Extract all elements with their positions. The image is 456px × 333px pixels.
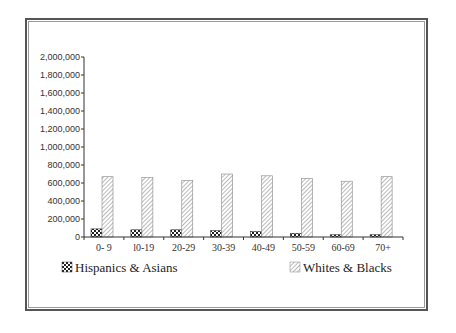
bar bbox=[91, 229, 102, 237]
y-tick-label: 1,200,000 bbox=[40, 124, 80, 134]
x-tick-label: 50-59 bbox=[292, 242, 315, 253]
y-tick-label: 200,000 bbox=[47, 214, 80, 224]
x-tick-label: l0-19 bbox=[133, 242, 154, 253]
y-tick-label: 1,000,000 bbox=[40, 142, 80, 152]
bar bbox=[211, 231, 222, 237]
y-tick-label: 1,800,000 bbox=[40, 70, 80, 80]
x-tick-label: 20-29 bbox=[172, 242, 195, 253]
bar bbox=[131, 230, 142, 237]
bar-chart: 0200,000400,000600,000800,0001,000,0001,… bbox=[0, 0, 456, 333]
bar bbox=[102, 177, 113, 237]
x-axis: 0- 9l0-1920-2930-3940-4950-5960-6970+ bbox=[84, 237, 403, 253]
y-tick-label: 1,600,000 bbox=[40, 88, 80, 98]
legend-label-whites-blacks: Whites & Blacks bbox=[303, 260, 392, 275]
bar bbox=[301, 179, 312, 238]
x-tick-label: 30-39 bbox=[212, 242, 235, 253]
bar bbox=[171, 230, 182, 237]
y-tick-label: 2,000,000 bbox=[40, 52, 80, 62]
y-tick-label: 600,000 bbox=[47, 178, 80, 188]
bar bbox=[251, 232, 262, 237]
bar bbox=[262, 176, 273, 237]
bar bbox=[290, 233, 301, 237]
legend-swatch-whites-blacks bbox=[290, 262, 300, 272]
legend: Hispanics & Asians Whites & Blacks bbox=[62, 260, 392, 275]
legend-swatch-hispanics-asians bbox=[62, 262, 72, 272]
x-tick-label: 60-69 bbox=[332, 242, 355, 253]
bar bbox=[381, 177, 392, 237]
y-tick-label: 800,000 bbox=[47, 160, 80, 170]
y-tick-label: 1,400,000 bbox=[40, 106, 80, 116]
y-tick-label: 0 bbox=[75, 232, 80, 242]
bar bbox=[182, 180, 193, 237]
bar bbox=[142, 178, 153, 237]
x-tick-label: 0- 9 bbox=[96, 242, 112, 253]
legend-label-hispanics-asians: Hispanics & Asians bbox=[75, 260, 178, 275]
bars bbox=[91, 174, 392, 237]
bar bbox=[341, 181, 352, 237]
bar bbox=[222, 174, 233, 237]
x-tick-label: 40-49 bbox=[252, 242, 275, 253]
y-axis: 0200,000400,000600,000800,0001,000,0001,… bbox=[40, 52, 84, 242]
y-tick-label: 400,000 bbox=[47, 196, 80, 206]
x-tick-label: 70+ bbox=[375, 242, 391, 253]
